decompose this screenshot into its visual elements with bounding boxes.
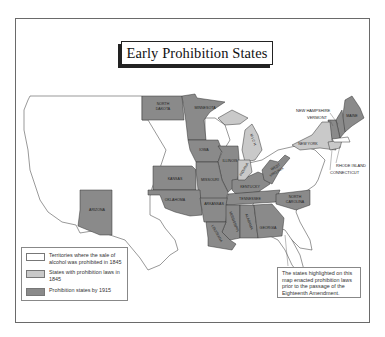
state-michigan-lower <box>242 124 262 162</box>
label-georgia: GEORGIA <box>260 226 277 230</box>
label-tennessee: TENNESSEE <box>239 197 261 201</box>
label-rhode-island: RHODE ISLAND <box>336 163 366 168</box>
legend-label: Territories where the sale of alcohol wa… <box>49 252 127 265</box>
label-vermont: VERMONT <box>307 115 328 120</box>
swatch-light-gray <box>26 270 45 278</box>
label-north-carolina-2: CAROLINA <box>286 200 305 204</box>
label-connecticut: CONNECTICUT <box>330 170 360 175</box>
label-north-carolina-1: NORTH <box>289 195 302 199</box>
legend-item-1915: Prohibition states by 1915 <box>26 287 127 296</box>
label-north-dakota-1: NORTH <box>157 102 170 106</box>
label-maine: MAINE <box>346 114 358 118</box>
legend-item-territories: Territories where the sale of alcohol wa… <box>26 252 127 265</box>
label-minnesota: MINNESOTA <box>194 106 216 110</box>
swatch-dark-gray <box>26 288 45 296</box>
label-north-dakota-2: DAKOTA <box>156 107 171 111</box>
label-iowa: IOWA <box>199 148 209 152</box>
state-oklahoma <box>148 190 202 216</box>
swatch-white <box>26 253 45 261</box>
label-kentucky: KENTUCKY <box>240 185 260 189</box>
label-kansas: KANSAS <box>168 177 183 181</box>
state-arizona <box>78 190 112 235</box>
annotation-note: The states highlighted on this map enact… <box>277 267 361 298</box>
state-michigan-upper <box>218 110 248 125</box>
legend-label: States with prohibition laws in 1845 <box>49 269 127 282</box>
legend-label: Prohibition states by 1915 <box>49 287 127 294</box>
map-title-box: Early Prohibition States <box>121 41 273 65</box>
label-arizona: ARIZONA <box>89 208 106 212</box>
label-new-hampshire: NEW HAMPSHIRE <box>296 108 331 113</box>
legend: Territories where the sale of alcohol wa… <box>21 247 128 301</box>
label-missouri: MISSOURI <box>201 178 219 182</box>
map-title: Early Prohibition States <box>127 45 268 62</box>
label-new-york: NEW YORK <box>298 142 318 146</box>
label-arkansas: ARKANSAS <box>204 202 224 206</box>
legend-item-1845: States with prohibition laws in 1845 <box>26 269 127 282</box>
label-illinois: ILLINOIS <box>223 159 238 163</box>
label-oklahoma: OKLAHOMA <box>165 198 186 202</box>
